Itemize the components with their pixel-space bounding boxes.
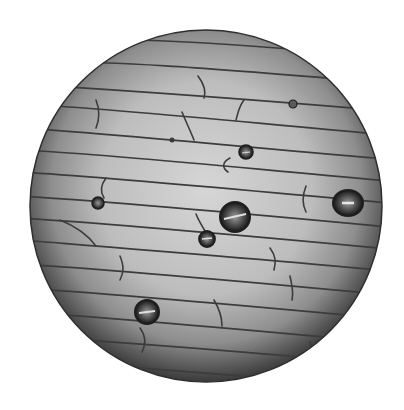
bubble xyxy=(199,231,215,247)
bubble xyxy=(135,300,159,324)
microscope-field xyxy=(0,0,404,410)
bubble xyxy=(289,100,297,108)
bubble xyxy=(239,145,253,159)
microscope-image xyxy=(0,0,404,410)
bubble xyxy=(220,202,250,232)
bubble xyxy=(333,190,363,216)
field-disc xyxy=(30,30,382,382)
bubble xyxy=(170,138,175,143)
bubble xyxy=(92,197,104,209)
